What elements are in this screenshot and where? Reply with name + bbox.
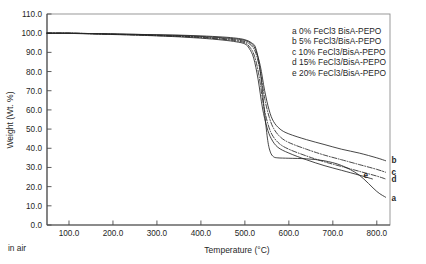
x-tick-label: 400.0: [191, 229, 212, 238]
x-axis-title: Temperature (°C): [204, 245, 269, 255]
x-tick-label: 500.0: [235, 229, 256, 238]
curve-tag-a: a: [392, 194, 397, 203]
y-tick-label: 80.0: [26, 68, 42, 77]
y-tick-label: 30.0: [26, 163, 42, 172]
tga-chart-figure: 100.0200.0300.0400.0500.0600.0700.0800.0…: [0, 0, 426, 264]
curve-tag-d: d: [392, 175, 397, 184]
curve-tag-e: e: [363, 171, 368, 180]
y-tick-label: 90.0: [26, 48, 42, 57]
curve-tag-b: b: [392, 156, 397, 165]
x-tick-label: 100.0: [59, 229, 80, 238]
y-tick-label: 20.0: [26, 183, 42, 192]
y-tick-label: 40.0: [26, 144, 42, 153]
legend-item-a: a 0% FeCl3 BisA-PEPO: [292, 26, 382, 36]
x-tick-label: 200.0: [103, 229, 124, 238]
y-tick-label: 10.0: [26, 202, 42, 211]
x-axis-ticks: 100.0200.0300.0400.0500.0600.0700.0800.0: [59, 221, 388, 239]
x-tick-label: 300.0: [147, 229, 168, 238]
y-tick-label: 100.0: [22, 29, 43, 38]
legend-item-b: b 5% FeCl3/BisA-PEPO: [292, 36, 382, 46]
x-tick-label: 600.0: [279, 229, 300, 238]
legend-item-d: d 15% FeCl3/BisA-PEPO: [292, 57, 387, 67]
x-tick-label: 700.0: [323, 229, 344, 238]
legend-item-e: e 20% FeCl3/BisA-PEPO: [292, 68, 387, 78]
chart-canvas: 100.0200.0300.0400.0500.0600.0700.0800.0…: [0, 0, 426, 264]
x-tick-label: 800.0: [367, 229, 388, 238]
y-tick-label: 50.0: [26, 125, 42, 134]
legend: a 0% FeCl3 BisA-PEPOb 5% FeCl3/BisA-PEPO…: [292, 26, 387, 78]
curve-end-labels: abcde: [363, 156, 396, 203]
legend-item-c: c 10% FeCl3/BisA-PEPO: [292, 47, 386, 57]
y-tick-label: 110.0: [22, 10, 42, 19]
y-tick-label: 0.0: [31, 221, 43, 230]
y-axis-title: Weight (Wt. %): [5, 91, 15, 148]
in-air-annotation: in air: [8, 243, 26, 253]
y-tick-label: 60.0: [26, 106, 42, 115]
y-tick-label: 70.0: [26, 87, 42, 96]
